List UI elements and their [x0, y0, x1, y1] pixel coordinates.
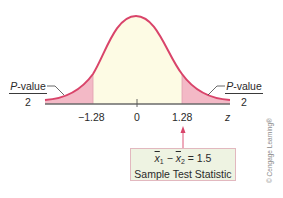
right-leader-line: [208, 86, 225, 95]
equals-value: = 1.5: [185, 152, 212, 164]
statistic-formula: x1 − x2 = 1.5: [131, 152, 235, 168]
tick-label-pos: 1.28: [172, 112, 192, 123]
test-statistic-callout: x1 − x2 = 1.5 Sample Test Statistic: [130, 148, 236, 181]
value-text: -value: [233, 80, 262, 92]
left-leader-line: [47, 86, 64, 95]
tick-label-neg: −1.28: [78, 112, 105, 123]
denominator: 2: [225, 94, 263, 108]
copyright-credit: © Cengage Learning®: [266, 118, 273, 183]
minus-sign: −: [164, 152, 176, 164]
axis-variable-z: z: [225, 112, 230, 123]
left-pvalue-label: P-value 2: [9, 80, 47, 108]
value-text: -value: [17, 80, 46, 92]
center-region: [93, 16, 182, 104]
right-pvalue-label: P-value 2: [225, 80, 263, 108]
denominator: 2: [9, 94, 47, 108]
arrow-up-icon: [181, 126, 186, 133]
tick-label-zero: 0: [134, 112, 140, 123]
statistic-caption: Sample Test Statistic: [131, 168, 235, 181]
